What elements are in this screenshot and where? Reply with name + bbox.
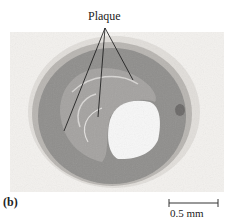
plaque-label: Plaque bbox=[88, 9, 121, 24]
panel-label: (b) bbox=[3, 195, 18, 210]
scale-bar-label: 0.5 mm bbox=[170, 207, 204, 219]
scale-bar bbox=[169, 199, 218, 207]
plaque-callout-lines bbox=[0, 0, 228, 224]
